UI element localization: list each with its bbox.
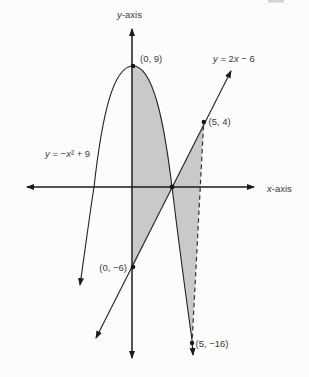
cropped-scan-artifact <box>268 0 284 3</box>
line-equation-label: y = 2x − 6 <box>212 53 255 64</box>
point-marker-3-0 <box>170 185 175 190</box>
graph-figure: y-axis x-axis y = 2x − 6 y = −x² + 9 (0,… <box>0 0 309 377</box>
shaded-region <box>133 66 204 340</box>
y-axis-label-rest: -axis <box>122 9 142 20</box>
point-label-0-9: (0, 9) <box>140 53 162 64</box>
x-axis-label-rest: -axis <box>272 183 292 194</box>
point-marker-0-9 <box>131 64 136 69</box>
point-marker-5-neg16 <box>190 341 194 345</box>
line-curve <box>96 71 231 338</box>
point-label-5-neg16: (5, −16) <box>196 338 229 349</box>
x-axis-label: x-axis <box>266 183 292 194</box>
parabola-equation-label: y = −x² + 9 <box>44 148 90 159</box>
point-label-5-4: (5, 4) <box>209 116 231 127</box>
point-marker-0-neg6 <box>131 265 136 270</box>
y-axis-label: y-axis <box>116 9 142 20</box>
eq-line-tail: − 6 <box>239 53 255 64</box>
point-label-0-neg6: (0, −6) <box>99 262 127 273</box>
eq-line-mid: = 2 <box>218 53 234 64</box>
eq-parab-tail: ² + 9 <box>71 148 90 159</box>
point-marker-5-4 <box>202 120 206 124</box>
eq-parab-mid: = − <box>50 148 67 159</box>
function-plot-canvas: y-axis x-axis y = 2x − 6 y = −x² + 9 (0,… <box>0 0 309 377</box>
